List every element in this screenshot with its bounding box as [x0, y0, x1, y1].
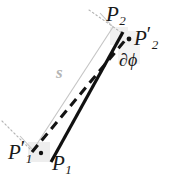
segment-P1-P2	[51, 32, 123, 162]
scan-halos	[28, 27, 140, 162]
label-partial-phi: ∂ϕ	[119, 51, 137, 69]
label-P1-subscript: 1	[65, 162, 72, 177]
label-P1prime-subscript: 1	[25, 151, 32, 166]
label-P2-base: P	[106, 2, 119, 26]
label-P2prime-base: P	[134, 26, 147, 50]
label-arclength-s: s	[56, 64, 63, 81]
label-P2: P2	[106, 4, 126, 27]
label-P2-subscript: 2	[119, 13, 126, 28]
label-P1-base: P	[52, 151, 65, 175]
label-P1prime-base: P	[8, 140, 21, 164]
arclength-s-guide	[33, 27, 113, 150]
point-P1prime-dot	[39, 151, 43, 155]
geometry-figure: P2 P′2 ∂ϕ P′1 P1 s	[0, 0, 182, 189]
segment-P1prime-P2prime	[32, 38, 127, 152]
point-P2prime-dot	[127, 37, 132, 42]
label-P1: P1	[52, 153, 72, 176]
label-P1-prime: P′1	[8, 139, 32, 165]
label-P2prime-subscript: 2	[151, 37, 158, 52]
label-P2-prime: P′2	[134, 25, 158, 51]
